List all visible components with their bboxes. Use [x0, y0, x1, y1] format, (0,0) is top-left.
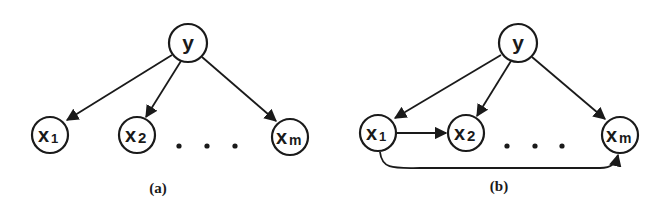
caption-a: (a) [149, 180, 167, 197]
svg-text:2: 2 [138, 129, 146, 146]
edge-y-x1 [395, 55, 501, 118]
svg-text:x: x [38, 124, 49, 146]
edge-y-x2 [477, 61, 511, 116]
edge-y-x2 [146, 61, 181, 117]
node-x1: x 1 [360, 115, 396, 151]
svg-text:m: m [289, 132, 301, 148]
ellipsis-dots [176, 143, 237, 148]
diagram-b: y x 1 x 2 x m (b) [360, 24, 638, 195]
bayesian-network-figure: y x 1 x 2 x m (a) [0, 0, 667, 211]
svg-text:x: x [125, 124, 136, 146]
svg-text:1: 1 [51, 131, 58, 146]
diagram-a: y x 1 x 2 x m (a) [32, 24, 308, 197]
node-xm: x m [602, 117, 638, 153]
node-xm: x m [272, 119, 308, 155]
svg-text:1: 1 [379, 129, 386, 144]
edge-x1-xm [380, 152, 618, 168]
edge-y-xm [532, 57, 605, 119]
node-x2: x 2 [119, 117, 155, 153]
svg-text:x: x [606, 124, 617, 146]
svg-text:x: x [366, 122, 377, 144]
caption-b: (b) [490, 178, 508, 195]
node-y: y [499, 24, 537, 62]
svg-text:m: m [619, 130, 631, 146]
node-y: y [169, 24, 207, 62]
svg-text:y: y [182, 31, 194, 54]
svg-text:y: y [512, 31, 524, 54]
node-x2: x 2 [448, 115, 484, 151]
node-x1: x 1 [32, 117, 68, 153]
svg-text:x: x [276, 126, 287, 148]
ellipsis-dots [504, 143, 564, 148]
edge-y-x1 [67, 55, 172, 120]
edge-y-xm [202, 57, 276, 121]
svg-text:2: 2 [467, 127, 475, 144]
svg-text:x: x [454, 122, 465, 144]
